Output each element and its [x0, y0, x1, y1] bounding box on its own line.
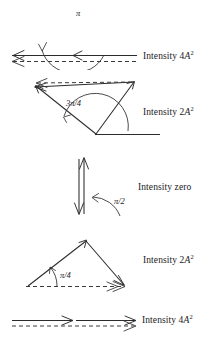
row-2-intensity-label: Intensity 2A2: [143, 105, 194, 117]
phasor-2b-line: [36, 86, 96, 134]
row-2-phase-label: 3π/4: [66, 98, 81, 108]
row-3-phase-label: π/2: [114, 196, 125, 206]
row-3-intensity-label: Intensity zero: [138, 180, 191, 192]
row-4-intensity-label: Intensity 2A2: [143, 253, 194, 265]
phasor-2-line: [35, 82, 134, 87]
row-5-intensity-label: Intensity 4A2: [142, 313, 193, 325]
phase-arc-arrowhead: [39, 43, 47, 52]
phasor-figure: π Intensity 4A2 3π/4: [0, 0, 215, 353]
phase-arc-arrowhead: [64, 115, 71, 123]
phasor-1-line: [28, 241, 86, 286]
row-4-phase-label: π/4: [60, 270, 71, 280]
phase-arc-pi4: [51, 268, 58, 287]
row-1-intensity-label: Intensity 4A2: [143, 49, 194, 61]
phasor-2-line: [86, 241, 124, 285]
phase-arc-pi: [42, 50, 104, 70]
row-1-phase-label: π: [76, 8, 80, 18]
